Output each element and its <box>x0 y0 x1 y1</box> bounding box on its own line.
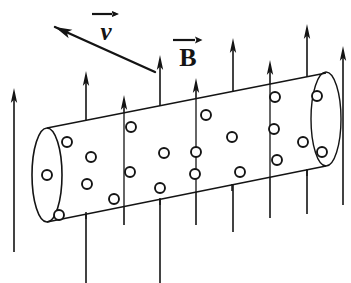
magnetic-field-vector-label: B <box>172 35 204 71</box>
charge-dot-4 <box>82 179 92 189</box>
charge-dot-2 <box>54 210 64 220</box>
velocity-symbol: v <box>91 19 121 44</box>
charge-dot-8 <box>159 148 169 158</box>
charge-dot-20 <box>317 147 327 157</box>
charge-dot-1 <box>62 137 72 147</box>
velocity-vector-label: v <box>91 9 121 44</box>
charge-dot-7 <box>125 167 135 177</box>
charge-dot-12 <box>190 169 200 179</box>
magnetic-field-symbol: B <box>172 45 204 71</box>
charge-dot-0 <box>42 170 52 180</box>
charge-dot-17 <box>272 155 282 165</box>
cylinder-body-fill <box>47 73 326 222</box>
charge-dot-16 <box>269 124 279 134</box>
charge-dot-9 <box>155 183 165 193</box>
charge-dot-3 <box>86 152 96 162</box>
velocity-overbar-arrow-icon <box>91 9 121 18</box>
charge-dot-5 <box>109 194 119 204</box>
conducting-cylinder <box>32 72 341 222</box>
charge-dot-10 <box>201 110 211 120</box>
charge-dot-19 <box>312 91 322 101</box>
physics-diagram-canvas: v B <box>0 0 351 283</box>
charge-dot-18 <box>298 137 308 147</box>
charge-dot-6 <box>126 122 136 132</box>
charge-dot-14 <box>235 167 245 177</box>
charge-dot-11 <box>191 147 201 157</box>
charge-dot-13 <box>227 132 237 142</box>
charge-dot-15 <box>270 92 280 102</box>
